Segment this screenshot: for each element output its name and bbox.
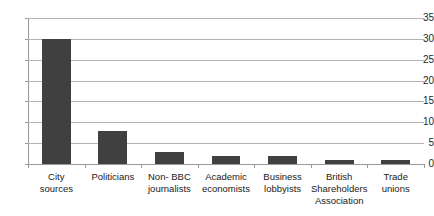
- bar: [212, 156, 241, 164]
- x-axis-label-line: lobbyists: [254, 183, 311, 195]
- x-axis-tick-mark: [254, 164, 255, 168]
- x-axis-label-line: journalists: [141, 183, 198, 195]
- x-axis-label-politicians: Politicians: [85, 171, 142, 183]
- bars-container: [28, 18, 424, 164]
- x-axis-label-line: unions: [367, 183, 424, 195]
- x-axis-tick-mark: [367, 164, 368, 168]
- bar-chart: 35 30 25 20 15 10 5 0 City sources: [0, 0, 434, 216]
- x-axis-tick-mark: [28, 164, 29, 168]
- x-axis-baseline: [28, 164, 424, 165]
- x-axis-tick-mark: [198, 164, 199, 168]
- x-axis-label-line: Politicians: [85, 171, 142, 183]
- bar: [155, 152, 184, 165]
- x-axis-tick-mark: [85, 164, 86, 168]
- x-axis-label-business-lobbyists: Business lobbyists: [254, 171, 311, 195]
- x-axis-label-trade-unions: Trade unions: [367, 171, 424, 195]
- x-axis-label-non-bbc-journalists: Non- BBC journalists: [141, 171, 198, 195]
- x-axis-label-academic-economists: Academic economists: [198, 171, 255, 195]
- x-axis-tick-mark: [141, 164, 142, 168]
- x-axis-labels: City sources Politicians Non- BBC journa…: [28, 171, 424, 216]
- plot-area: [28, 18, 424, 164]
- x-axis-label-line: sources: [28, 183, 85, 195]
- x-axis-label-line: Business: [254, 171, 311, 183]
- bar: [325, 160, 354, 164]
- x-axis-label-line: Academic: [198, 171, 255, 183]
- x-axis-label-line: Non- BBC: [141, 171, 198, 183]
- x-axis-label-line: Association: [311, 195, 368, 207]
- x-axis-label-line: economists: [198, 183, 255, 195]
- x-axis-label-city-sources: City sources: [28, 171, 85, 195]
- x-axis-label-line: British: [311, 171, 368, 183]
- bar: [42, 39, 71, 164]
- x-axis-label-british-shareholders-association: British Shareholders Association: [311, 171, 368, 207]
- bar: [98, 131, 127, 164]
- bar: [381, 160, 410, 164]
- x-axis-label-line: Shareholders: [311, 183, 368, 195]
- x-axis-label-line: Trade: [367, 171, 424, 183]
- x-axis-tick-mark: [311, 164, 312, 168]
- x-axis-tick-mark: [424, 164, 425, 168]
- x-axis-label-line: City: [28, 171, 85, 183]
- bar: [268, 156, 297, 164]
